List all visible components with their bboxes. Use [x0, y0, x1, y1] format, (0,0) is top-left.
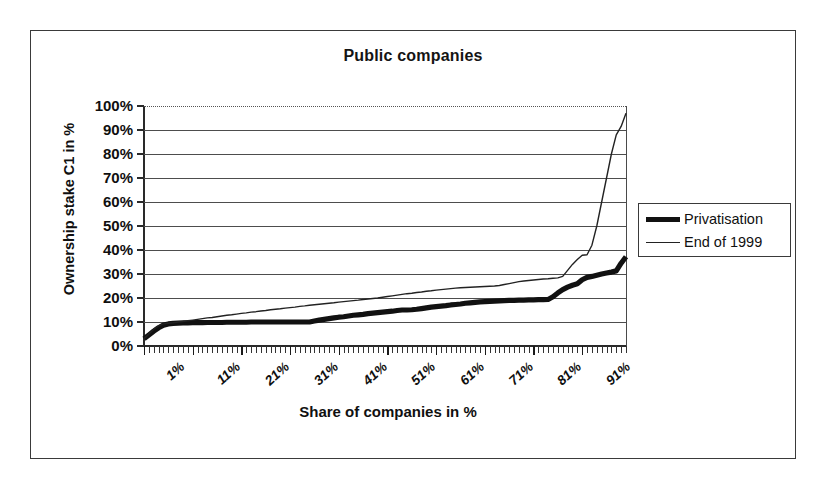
y-axis-tick-label: 20% [63, 290, 133, 305]
x-axis-minor-tick [509, 346, 510, 353]
x-axis-minor-tick [529, 346, 530, 353]
x-axis-minor-tick [202, 346, 203, 353]
x-axis-minor-tick [217, 346, 218, 353]
x-axis-minor-tick [163, 346, 164, 353]
x-axis-minor-tick [626, 346, 627, 353]
x-axis-minor-tick [597, 346, 598, 353]
x-axis-minor-tick [495, 346, 496, 353]
x-axis-minor-tick [227, 346, 228, 353]
x-axis-minor-tick [178, 346, 179, 353]
x-axis-tick-label: 71% [506, 359, 536, 388]
x-axis-minor-tick [543, 346, 544, 353]
y-axis-tick [137, 105, 144, 106]
x-axis-minor-tick [261, 346, 262, 353]
x-axis-minor-tick [275, 346, 276, 353]
x-axis-minor-tick [563, 346, 564, 353]
plot-right-border [626, 106, 627, 346]
x-axis-minor-tick [422, 346, 423, 353]
x-axis-major-tick [241, 346, 242, 355]
x-axis-minor-tick [470, 346, 471, 353]
x-axis-title: Share of companies in % [131, 403, 645, 420]
y-axis-tick-label: 90% [63, 122, 133, 137]
legend: Privatisation End of 1999 [638, 203, 791, 257]
y-axis-tick [137, 153, 144, 154]
x-axis-minor-tick [348, 346, 349, 353]
x-axis-minor-tick [538, 346, 539, 353]
x-axis-minor-tick [383, 346, 384, 353]
x-axis-minor-tick [577, 346, 578, 353]
x-axis-minor-tick [207, 346, 208, 353]
x-axis-minor-tick [271, 346, 272, 353]
x-axis-tick-label: 61% [457, 359, 487, 388]
series-line-privatisation [144, 257, 626, 339]
x-axis-minor-tick [300, 346, 301, 353]
x-axis-minor-tick [490, 346, 491, 353]
x-axis-minor-tick [465, 346, 466, 353]
x-axis-tick-label: 81% [554, 359, 584, 388]
x-axis-minor-tick [592, 346, 593, 353]
x-axis-minor-tick [344, 346, 345, 353]
x-axis-minor-tick [222, 346, 223, 353]
series-line-end-of-1999 [144, 113, 626, 339]
x-axis-minor-tick [519, 346, 520, 353]
x-axis-minor-tick [246, 346, 247, 353]
x-axis-tick-label: 21% [262, 359, 292, 388]
x-axis-minor-tick [324, 346, 325, 353]
x-axis-major-tick [290, 346, 291, 355]
x-axis-minor-tick [358, 346, 359, 353]
x-axis-minor-tick [441, 346, 442, 353]
x-axis-minor-tick [621, 346, 622, 353]
y-axis-tick [137, 297, 144, 298]
x-axis-minor-tick [237, 346, 238, 353]
x-axis-minor-tick [232, 346, 233, 353]
x-axis-minor-tick [607, 346, 608, 353]
legend-item-end-of-1999: End of 1999 [645, 231, 784, 254]
x-axis-minor-tick [611, 346, 612, 353]
x-axis-minor-tick [319, 346, 320, 353]
y-axis-tick-label: 50% [63, 218, 133, 233]
x-axis-tick-label: 91% [603, 359, 633, 388]
chart-title: Public companies [31, 47, 795, 65]
x-axis-minor-tick [451, 346, 452, 353]
x-axis-minor-tick [402, 346, 403, 353]
x-axis-minor-tick [266, 346, 267, 353]
y-axis-tick [137, 129, 144, 130]
y-axis-tick-label: 30% [63, 266, 133, 281]
x-axis-minor-tick [314, 346, 315, 353]
x-axis-minor-tick [568, 346, 569, 353]
x-axis-minor-tick [616, 346, 617, 353]
x-axis-major-tick [485, 346, 486, 355]
x-axis-major-tick [533, 346, 534, 355]
x-axis-minor-tick [602, 346, 603, 353]
x-axis-minor-tick [553, 346, 554, 353]
x-axis-minor-tick [149, 346, 150, 353]
x-axis-minor-tick [548, 346, 549, 353]
x-axis-minor-tick [168, 346, 169, 353]
x-axis-major-tick [144, 346, 145, 355]
x-axis-tick-label: 31% [311, 359, 341, 388]
x-axis-minor-tick [475, 346, 476, 353]
y-axis-tick [137, 321, 144, 322]
x-axis-minor-tick [431, 346, 432, 353]
x-axis-minor-tick [412, 346, 413, 353]
series-lines [144, 106, 626, 346]
plot-area: 100%90%80%70%60%50%40%30%20%10%0% 1%11%2… [144, 106, 626, 346]
x-axis-major-tick [193, 346, 194, 355]
y-axis-tick-label: 100% [63, 98, 133, 113]
y-axis-tick-label: 80% [63, 146, 133, 161]
x-axis-minor-tick [587, 346, 588, 353]
x-axis-minor-tick [154, 346, 155, 353]
x-axis-major-tick [387, 346, 388, 355]
y-axis-tick-label: 70% [63, 170, 133, 185]
x-axis-minor-tick [285, 346, 286, 353]
x-axis-minor-tick [159, 346, 160, 353]
y-axis-tick [137, 345, 144, 346]
x-axis-minor-tick [334, 346, 335, 353]
x-axis-major-tick [339, 346, 340, 355]
legend-label: Privatisation [684, 212, 763, 227]
x-axis-minor-tick [392, 346, 393, 353]
x-axis-minor-tick [368, 346, 369, 353]
x-axis-tick-label: 51% [408, 359, 438, 388]
x-axis-minor-tick [183, 346, 184, 353]
x-axis-minor-tick [280, 346, 281, 353]
